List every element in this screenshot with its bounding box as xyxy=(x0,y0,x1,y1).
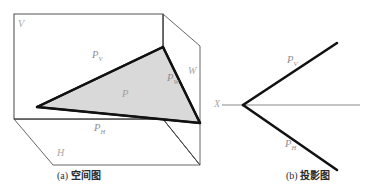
panel-a-spatial-diagram xyxy=(14,14,200,165)
caption-panel-b: (b) 投影图 xyxy=(286,167,330,182)
trace-ph-line-proj xyxy=(243,105,337,170)
caption-panel-a-index: (a) xyxy=(57,170,68,181)
trace-pv-line-proj xyxy=(243,43,337,105)
caption-panel-a-text: 空间图 xyxy=(71,170,101,181)
panel-b-projection-diagram xyxy=(222,43,360,170)
caption-panel-b-index: (b) xyxy=(286,170,298,181)
caption-panel-b-text: 投影图 xyxy=(300,170,330,181)
caption-panel-a: (a) 空间图 xyxy=(57,167,101,182)
figure-descriptive-geometry xyxy=(0,0,367,193)
